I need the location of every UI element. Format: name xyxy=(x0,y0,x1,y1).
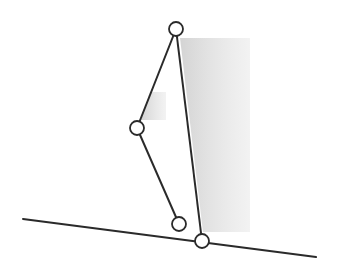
top-joint-circle-icon xyxy=(169,22,183,36)
ground-joint-circle-icon xyxy=(195,234,209,248)
linkage-diagram xyxy=(0,0,344,273)
lower-left-bar xyxy=(137,128,179,224)
main-shadow-region xyxy=(180,38,250,232)
lower-joint-circle-icon xyxy=(172,217,186,231)
shaded-regions xyxy=(141,38,250,232)
middle-joint-circle-icon xyxy=(130,121,144,135)
ground-line xyxy=(23,219,316,257)
